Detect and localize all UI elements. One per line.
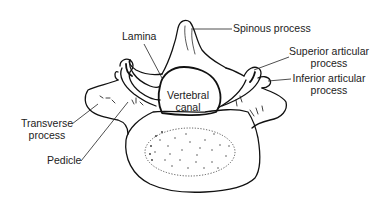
label-lamina: Lamina [122, 31, 156, 43]
leader-pedicle [81, 102, 128, 161]
label-superior-line2: process [288, 58, 370, 70]
vertebra-diagram: Spinous process Lamina Superior articula… [0, 0, 383, 206]
leader-lamina [144, 44, 162, 78]
label-transverse-line2: process [18, 130, 76, 142]
leader-inferior-articular [268, 79, 291, 81]
label-canal-line2: canal [160, 102, 216, 114]
right-lamina [226, 68, 244, 76]
label-transverse-process: Transverse process [18, 118, 76, 141]
label-inferior-line1: Inferior articular [290, 73, 368, 85]
vertebral-body [126, 110, 260, 193]
spinous-process [162, 20, 226, 74]
leader-superior-articular [254, 57, 289, 70]
right-transverse [252, 88, 286, 128]
label-spinous-process: Spinous process [233, 23, 311, 35]
left-transverse [85, 80, 128, 134]
label-inferior-articular-process: Inferior articular process [290, 73, 368, 96]
label-vertebral-canal: Vertebral canal [160, 90, 216, 113]
body-stipple [145, 128, 235, 176]
label-superior-line1: Superior articular [288, 46, 370, 58]
label-inferior-line2: process [290, 85, 368, 97]
label-canal-line1: Vertebral [160, 90, 216, 102]
label-pedicle: Pedicle [47, 155, 81, 167]
left-lamina [129, 60, 162, 75]
label-transverse-line1: Transverse [18, 118, 76, 130]
label-superior-articular-process: Superior articular process [288, 46, 370, 69]
